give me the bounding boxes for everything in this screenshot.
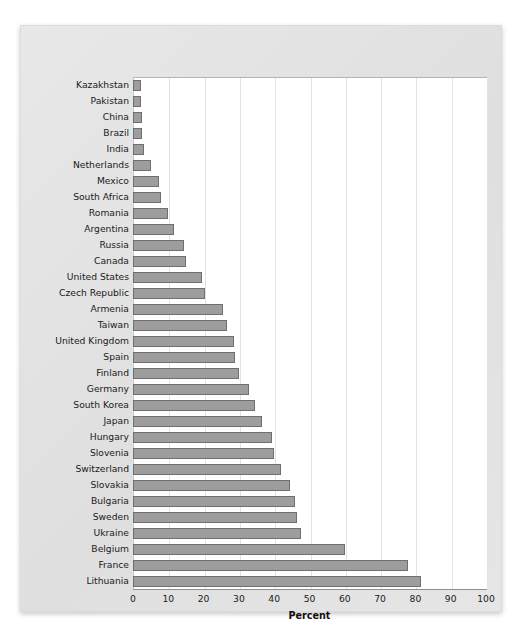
- bar-row[interactable]: [133, 400, 486, 411]
- category-label-romania: Romania: [40, 208, 129, 217]
- bar-row[interactable]: [133, 272, 486, 283]
- bar-row[interactable]: [133, 144, 486, 155]
- bar[interactable]: [133, 512, 297, 523]
- bar-row[interactable]: [133, 512, 486, 523]
- bar-row[interactable]: [133, 224, 486, 235]
- category-label-mexico: Mexico: [40, 176, 129, 185]
- bar[interactable]: [133, 176, 159, 187]
- bar[interactable]: [133, 144, 144, 155]
- bar-row[interactable]: [133, 160, 486, 171]
- bar[interactable]: [133, 208, 168, 219]
- bar[interactable]: [133, 480, 290, 491]
- bar[interactable]: [133, 576, 421, 587]
- bar-row[interactable]: [133, 240, 486, 251]
- category-label-czech-republic: Czech Republic: [40, 288, 129, 297]
- bar-row[interactable]: [133, 544, 486, 555]
- category-label-united-states: United States: [40, 272, 129, 281]
- category-label-south-africa: South Africa: [40, 192, 129, 201]
- bar[interactable]: [133, 80, 141, 91]
- bar-row[interactable]: [133, 496, 486, 507]
- category-label-india: India: [40, 144, 129, 153]
- bar[interactable]: [133, 160, 151, 171]
- bar[interactable]: [133, 368, 239, 379]
- category-label-switzerland: Switzerland: [40, 464, 129, 473]
- bar[interactable]: [133, 464, 281, 475]
- bar-row[interactable]: [133, 128, 486, 139]
- category-label-sweden: Sweden: [40, 512, 129, 521]
- bar[interactable]: [133, 528, 301, 539]
- bar[interactable]: [133, 496, 295, 507]
- category-label-slovakia: Slovakia: [40, 480, 129, 489]
- bar[interactable]: [133, 304, 223, 315]
- x-tick-90: 90: [445, 593, 457, 604]
- x-tick-100: 100: [477, 593, 495, 604]
- bar[interactable]: [133, 544, 345, 555]
- bar-row[interactable]: [133, 208, 486, 219]
- bar[interactable]: [133, 416, 262, 427]
- x-tick-50: 50: [304, 593, 316, 604]
- category-label-netherlands: Netherlands: [40, 160, 129, 169]
- x-tick-80: 80: [410, 593, 422, 604]
- category-label-slovenia: Slovenia: [40, 448, 129, 457]
- category-label-kazakhstan: Kazakhstan: [40, 80, 129, 89]
- figure-frame: KazakhstanPakistanChinaBrazilIndiaNether…: [20, 25, 502, 612]
- bar[interactable]: [133, 192, 161, 203]
- bar-row[interactable]: [133, 576, 486, 587]
- category-label-taiwan: Taiwan: [40, 320, 129, 329]
- bar-row[interactable]: [133, 528, 486, 539]
- bar[interactable]: [133, 272, 202, 283]
- bar-row[interactable]: [133, 384, 486, 395]
- bar-row[interactable]: [133, 336, 486, 347]
- category-label-lithuania: Lithuania: [40, 576, 129, 585]
- bar-row[interactable]: [133, 80, 486, 91]
- bar[interactable]: [133, 336, 234, 347]
- bar[interactable]: [133, 560, 408, 571]
- bar-row[interactable]: [133, 432, 486, 443]
- bar-row[interactable]: [133, 96, 486, 107]
- bar-row[interactable]: [133, 192, 486, 203]
- category-label-finland: Finland: [40, 368, 129, 377]
- bar-row[interactable]: [133, 464, 486, 475]
- x-tick-70: 70: [374, 593, 386, 604]
- bar[interactable]: [133, 288, 205, 299]
- category-label-south-korea: South Korea: [40, 400, 129, 409]
- category-label-hungary: Hungary: [40, 432, 129, 441]
- category-label-armenia: Armenia: [40, 304, 129, 313]
- category-label-belgium: Belgium: [40, 544, 129, 553]
- bar-row[interactable]: [133, 416, 486, 427]
- bar-row[interactable]: [133, 288, 486, 299]
- category-label-japan: Japan: [40, 416, 129, 425]
- bar[interactable]: [133, 96, 141, 107]
- x-axis-title: Percent: [133, 610, 486, 621]
- bar[interactable]: [133, 256, 186, 267]
- bar[interactable]: [133, 224, 174, 235]
- gridline: [487, 78, 488, 590]
- bar[interactable]: [133, 432, 272, 443]
- bar[interactable]: [133, 240, 184, 251]
- bar[interactable]: [133, 448, 274, 459]
- bar-row[interactable]: [133, 304, 486, 315]
- x-tick-20: 20: [198, 593, 210, 604]
- bar-row[interactable]: [133, 256, 486, 267]
- bar[interactable]: [133, 112, 142, 123]
- bar-row[interactable]: [133, 560, 486, 571]
- bar-row[interactable]: [133, 448, 486, 459]
- bar[interactable]: [133, 384, 249, 395]
- category-label-pakistan: Pakistan: [40, 96, 129, 105]
- bar[interactable]: [133, 128, 142, 139]
- category-label-united-kingdom: United Kingdom: [40, 336, 129, 345]
- category-label-russia: Russia: [40, 240, 129, 249]
- bar-row[interactable]: [133, 176, 486, 187]
- x-tick-40: 40: [268, 593, 280, 604]
- x-tick-labels: 0102030405060708090100: [133, 593, 486, 607]
- bar-row[interactable]: [133, 480, 486, 491]
- bar[interactable]: [133, 320, 227, 331]
- bar-row[interactable]: [133, 112, 486, 123]
- bar-row[interactable]: [133, 320, 486, 331]
- bar-row[interactable]: [133, 368, 486, 379]
- x-tick-0: 0: [130, 593, 136, 604]
- bar[interactable]: [133, 352, 235, 363]
- bar-row[interactable]: [133, 352, 486, 363]
- bar[interactable]: [133, 400, 255, 411]
- category-label-china: China: [40, 112, 129, 121]
